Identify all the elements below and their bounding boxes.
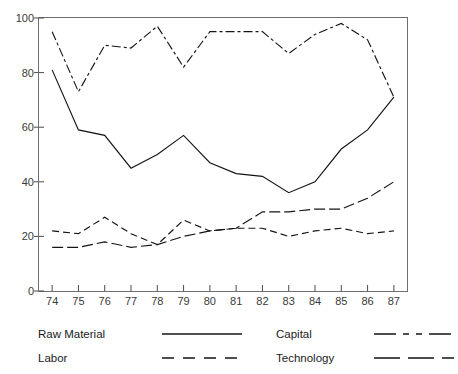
- x-tick-label: 84: [309, 296, 321, 307]
- legend-swatch-capital: [372, 327, 458, 341]
- legend-label-capital: Capital: [252, 328, 372, 340]
- chart-legend: Raw Material Capital Labor Technology: [14, 322, 408, 370]
- x-tick-label: 85: [335, 296, 347, 307]
- x-tick-label: 81: [230, 296, 242, 307]
- x-tick-label: 83: [283, 296, 295, 307]
- legend-label-labor: Labor: [14, 352, 160, 364]
- legend-swatch-technology: [372, 351, 458, 365]
- legend-swatch-labor: [160, 351, 252, 365]
- x-tick-label: 76: [99, 296, 111, 307]
- legend-label-technology: Technology: [252, 352, 372, 364]
- x-tick-label: 82: [256, 296, 268, 307]
- x-tick-label: 87: [388, 296, 400, 307]
- legend-swatch-raw-material: [160, 327, 252, 341]
- legend-label-raw-material: Raw Material: [14, 328, 160, 340]
- x-tick-label: 74: [46, 296, 58, 307]
- x-tick-label: 80: [204, 296, 216, 307]
- x-tick-label: 75: [72, 296, 84, 307]
- x-tick-label: 79: [177, 296, 189, 307]
- x-tick-label: 86: [361, 296, 373, 307]
- x-tick-label: 78: [151, 296, 163, 307]
- x-tick-label: 77: [125, 296, 137, 307]
